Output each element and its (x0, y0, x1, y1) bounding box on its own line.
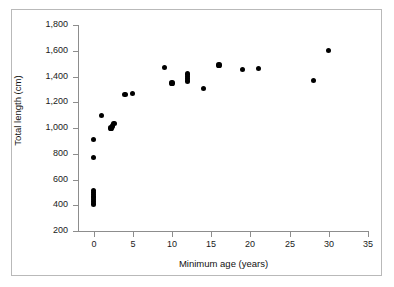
y-axis-tick-label: 800 (53, 149, 68, 158)
x-axis-tick (329, 232, 330, 237)
y-axis-tick-label: 400 (53, 200, 68, 209)
data-point (201, 86, 206, 91)
x-axis-tick (94, 232, 95, 237)
data-point (122, 92, 127, 97)
figure: 2004006008001,0001,2001,4001,6001,800 05… (0, 0, 394, 287)
x-axis-tick (172, 232, 173, 237)
y-axis-tick-label: 1,200 (45, 97, 68, 106)
data-point (311, 78, 316, 83)
x-axis-tick (368, 232, 369, 237)
x-axis-tick-label: 10 (157, 240, 187, 249)
y-axis-tick-label: 1,800 (45, 20, 68, 29)
x-axis-tick-label: 15 (196, 240, 226, 249)
data-point (91, 137, 96, 142)
data-point (216, 62, 221, 67)
data-point (111, 121, 116, 126)
x-axis-tick-label: 35 (353, 240, 383, 249)
x-axis-title: Minimum age (years) (78, 258, 369, 269)
x-axis-tick (133, 232, 134, 237)
y-axis-tick-label: 600 (53, 175, 68, 184)
x-axis-tick-label: 5 (118, 240, 148, 249)
x-axis-tick-label: 0 (79, 240, 109, 249)
y-axis-title: Total length (cm) (12, 31, 23, 191)
y-axis-tick-label: 1,000 (45, 123, 68, 132)
y-axis-tick-label: 200 (53, 226, 68, 235)
data-point (162, 65, 167, 70)
x-axis-tick-label: 30 (314, 240, 344, 249)
data-point (326, 48, 331, 53)
data-point (240, 67, 245, 72)
data-point (99, 113, 104, 118)
x-axis-line (78, 231, 369, 232)
y-axis-tick-label: 1,600 (45, 46, 68, 55)
x-axis-tick (290, 232, 291, 237)
x-axis-tick-label: 25 (275, 240, 305, 249)
x-axis-tick-label: 20 (235, 240, 265, 249)
x-axis-tick (250, 232, 251, 237)
data-point (185, 71, 190, 76)
plot-area (78, 25, 368, 231)
data-point (256, 66, 261, 71)
y-axis-tick (73, 231, 78, 232)
data-point (130, 91, 135, 96)
data-point (169, 80, 174, 85)
data-point (91, 155, 96, 160)
y-axis-tick-label: 1,400 (45, 72, 68, 81)
x-axis-tick (211, 232, 212, 237)
